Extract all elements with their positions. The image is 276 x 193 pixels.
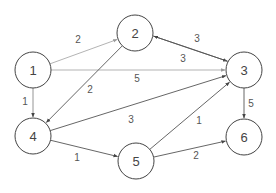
edge-5-to-6 [154, 141, 226, 157]
edge-weight-label: 3 [180, 53, 186, 64]
edge-2-to-4 [46, 46, 122, 123]
edge-weight-label: 2 [75, 34, 81, 45]
node-3: 3 [226, 52, 262, 88]
edge-1-to-2 [50, 39, 117, 63]
edges-layer [33, 36, 244, 157]
edge-3-to-2 [154, 36, 228, 61]
node-label: 2 [131, 26, 138, 41]
graph-canvas: 25123331125 123456 [0, 0, 276, 193]
node-label: 4 [29, 129, 36, 144]
edge-weight-label: 3 [194, 33, 200, 44]
edge-weight-label: 1 [22, 96, 28, 107]
edge-weight-label: 5 [248, 98, 254, 109]
node-5: 5 [118, 143, 154, 179]
node-1: 1 [15, 52, 51, 88]
node-4: 4 [15, 118, 51, 154]
node-label: 3 [240, 63, 247, 78]
edge-weight-label: 1 [74, 152, 80, 163]
edge-4-to-5 [50, 140, 117, 156]
edge-weight-label: 5 [134, 73, 140, 84]
node-2: 2 [117, 15, 153, 51]
edge-5-to-3 [150, 82, 230, 149]
edge-weight-label: 3 [128, 114, 134, 125]
node-6: 6 [226, 119, 262, 155]
node-label: 6 [240, 130, 247, 145]
edge-weight-label: 2 [193, 150, 199, 161]
node-label: 1 [29, 63, 36, 78]
edge-weight-label: 1 [196, 115, 202, 126]
edge-weight-label: 2 [87, 84, 93, 95]
graph-diagram: 25123331125 123456 [0, 0, 276, 193]
nodes-layer: 123456 [15, 15, 262, 179]
node-label: 5 [132, 154, 139, 169]
